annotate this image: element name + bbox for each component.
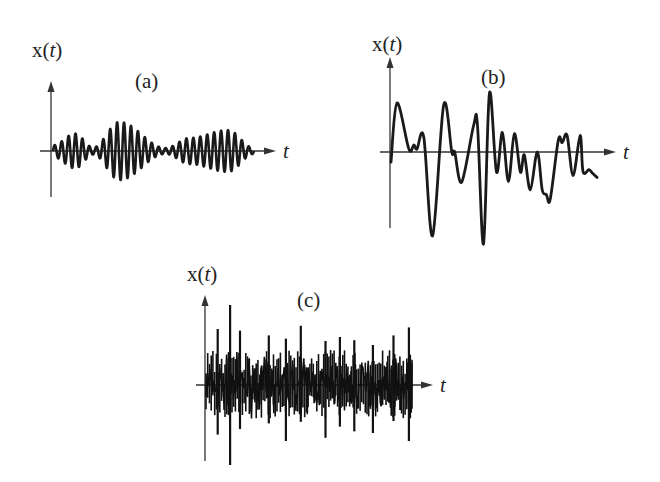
panel-a-label: (a) — [135, 69, 158, 93]
panel-c-xlabel: t — [440, 373, 447, 397]
panel-c-ylabel: x(t) — [187, 262, 217, 286]
signals-figure: x(t) (a) t x(t) (b) t x(t) (c) t — [0, 0, 660, 482]
panel-a-x-arrow-icon — [264, 148, 276, 155]
panel-c-x-arrow-icon — [421, 382, 433, 389]
panel-b-label: (b) — [481, 65, 506, 89]
panel-a-ylabel: x(t) — [32, 38, 62, 62]
panel-a-y-arrow-icon — [48, 81, 55, 92]
panel-b-ylabel: x(t) — [372, 32, 402, 56]
panel-a-signal — [53, 122, 254, 179]
panel-b-x-arrow-icon — [604, 149, 616, 156]
panel-c-label: (c) — [297, 288, 320, 312]
panel-b-xlabel: t — [623, 140, 630, 164]
panel-a-xlabel: t — [283, 139, 290, 163]
panel-b-y-arrow-icon — [387, 57, 394, 68]
panel-b-signal — [391, 92, 597, 244]
panel-c-y-arrow-icon — [202, 295, 209, 306]
panel-c: x(t) (c) t — [187, 262, 447, 465]
panel-b: x(t) (b) t — [372, 32, 630, 244]
panel-a: x(t) (a) t — [32, 38, 290, 197]
